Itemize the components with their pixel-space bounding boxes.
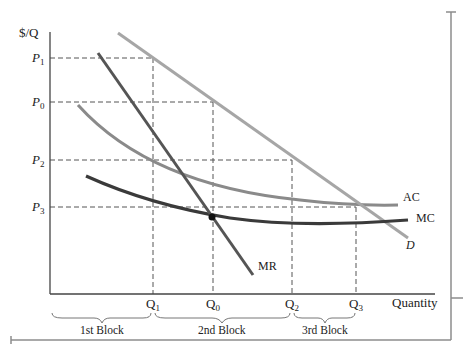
q0-label: Q0: [206, 296, 220, 313]
block-braces: [52, 313, 355, 323]
block-2-label: 2nd Block: [198, 324, 246, 336]
brace-1st-block: [52, 313, 151, 323]
mr-mc-intersection-point: [209, 214, 216, 221]
q1-label: Q1: [146, 296, 160, 313]
demand-label: D: [405, 238, 415, 252]
block-pricing-chart: $/Q P1 P0 P2 P3 Q1 Q0 Q2 Q3 Quantity AC …: [0, 0, 463, 357]
y-axis-label: $/Q: [19, 25, 39, 40]
p0-label: P0: [31, 94, 45, 111]
q3-label: Q3: [349, 296, 363, 313]
brace-3rd-block: [294, 313, 355, 323]
mc-label: MC: [416, 211, 435, 225]
mc-curve: [86, 176, 408, 224]
block-1-label: 1st Block: [80, 324, 124, 336]
brace-2nd-block: [155, 313, 290, 323]
ac-curve: [78, 105, 398, 205]
mr-label: MR: [258, 259, 277, 273]
p3-label: P3: [31, 199, 45, 216]
mr-curve: [98, 53, 253, 275]
p2-label: P2: [31, 152, 44, 169]
q2-label: Q2: [285, 296, 299, 313]
block-3-label: 3rd Block: [302, 324, 348, 336]
p1-label: P1: [31, 50, 44, 67]
x-axis-label: Quantity: [392, 295, 438, 310]
axes: [50, 32, 435, 294]
ac-label: AC: [403, 190, 420, 204]
